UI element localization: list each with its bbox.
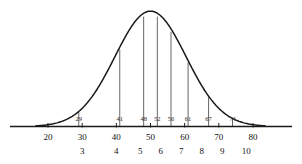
- index-label-6: 6: [159, 147, 164, 156]
- ordinate-label-61: 61: [185, 116, 192, 123]
- axis-tick-label-60: 60: [180, 133, 189, 142]
- index-label-3: 3: [80, 147, 85, 156]
- normal-distribution-figure: 2941485256616774 20304050607080 34567891…: [0, 0, 302, 164]
- ordinate-label-41: 41: [117, 116, 124, 123]
- bell-curve-path: [36, 11, 265, 126]
- axis-tick-label-40: 40: [112, 133, 121, 142]
- index-label-10: 10: [242, 147, 251, 156]
- index-label-7: 7: [179, 147, 184, 156]
- ordinate-label-48: 48: [140, 116, 147, 123]
- index-label-4: 4: [114, 147, 119, 156]
- axis-tick-label-50: 50: [146, 133, 155, 142]
- axis-tick-label-70: 70: [214, 133, 223, 142]
- index-label-9: 9: [220, 147, 225, 156]
- ordinate-label-67: 67: [205, 116, 212, 123]
- ordinate-label-74: 74: [229, 116, 236, 123]
- ordinate-label-52: 52: [154, 116, 161, 123]
- axis-tick-label-20: 20: [44, 133, 53, 142]
- ordinate-label-56: 56: [168, 116, 175, 123]
- axis-tick-label-30: 30: [78, 133, 87, 142]
- ordinate-lines-group: [79, 17, 233, 127]
- ordinate-label-29: 29: [76, 116, 83, 123]
- axis-tick-label-80: 80: [249, 133, 258, 142]
- index-label-8: 8: [200, 147, 205, 156]
- index-label-5: 5: [138, 147, 143, 156]
